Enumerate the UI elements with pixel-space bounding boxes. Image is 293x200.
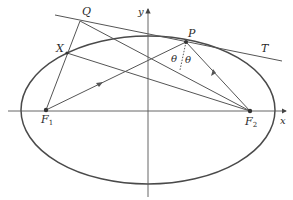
label-f2-main: F <box>244 115 253 128</box>
label-x: X <box>55 42 65 55</box>
label-y-axis: y <box>137 6 144 17</box>
label-f1-main: F <box>40 113 49 126</box>
label-x-axis: x <box>280 115 286 126</box>
segment-f1-q <box>46 21 80 110</box>
label-f2-sub: 2 <box>253 121 257 129</box>
point-f1 <box>44 108 48 112</box>
arrow-f1-p-icon <box>96 82 103 87</box>
point-p <box>184 40 188 44</box>
label-f1-sub: 1 <box>49 119 53 127</box>
label-t: T <box>261 42 270 55</box>
point-x <box>65 51 68 54</box>
label-f1: F1 <box>40 113 53 127</box>
label-theta-left: θ <box>171 53 177 64</box>
segment-q-f2 <box>80 21 250 111</box>
label-theta-right: θ <box>185 54 191 65</box>
tangent-line <box>55 15 282 61</box>
label-q: Q <box>82 5 91 18</box>
point-f2 <box>248 109 252 113</box>
ellipse-diagram: Q X P T y x θ θ F1 F2 <box>0 0 293 200</box>
label-p: P <box>187 27 196 40</box>
label-f2: F2 <box>244 115 257 129</box>
